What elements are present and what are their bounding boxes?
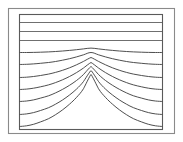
contour-figure <box>0 0 183 142</box>
figure-root <box>0 0 183 142</box>
